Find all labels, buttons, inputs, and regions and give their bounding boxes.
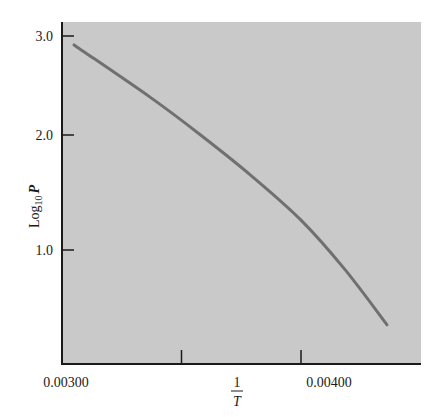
x-tick-label: 0.00400 — [306, 375, 352, 390]
x-axis-label: 1 T — [231, 375, 243, 409]
chart: 3.02.01.0 0.003000.00400 Log10P 1 T — [0, 0, 437, 417]
y-tick-label: 1.0 — [36, 243, 54, 258]
y-axis-label: Log10P — [27, 184, 44, 228]
x-tick-labels: 0.003000.00400 — [43, 375, 352, 390]
y-tick-label: 3.0 — [36, 29, 54, 44]
y-tick-label: 2.0 — [36, 128, 54, 143]
x-label-denominator: T — [233, 394, 242, 409]
x-tick-label: 0.00300 — [43, 375, 89, 390]
x-label-numerator: 1 — [234, 375, 241, 390]
